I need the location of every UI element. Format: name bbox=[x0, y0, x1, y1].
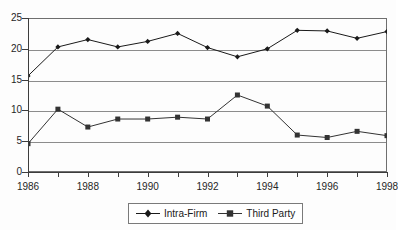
x-tick-label: 1996 bbox=[316, 181, 338, 192]
data-point-square bbox=[175, 115, 180, 120]
x-tick-label: 1994 bbox=[256, 181, 278, 192]
x-tick bbox=[237, 172, 238, 177]
x-tick bbox=[118, 172, 119, 177]
x-tick bbox=[178, 172, 179, 177]
data-point-diamond bbox=[295, 28, 300, 33]
x-tick bbox=[88, 172, 89, 177]
data-point-diamond bbox=[325, 28, 330, 33]
data-point-square bbox=[325, 135, 330, 140]
data-point-diamond bbox=[235, 54, 240, 59]
x-tick-label: 1998 bbox=[376, 181, 398, 192]
series-layer bbox=[28, 18, 387, 172]
y-tick bbox=[22, 141, 28, 142]
data-point-square bbox=[235, 93, 240, 98]
data-point-square bbox=[145, 117, 150, 122]
legend: Intra-Firm Third Party bbox=[128, 203, 303, 224]
y-tick bbox=[22, 49, 28, 50]
legend-entry-intra-firm: Intra-Firm bbox=[136, 208, 207, 219]
legend-label-third-party: Third Party bbox=[246, 208, 295, 219]
square-marker-icon bbox=[218, 208, 242, 219]
series-line bbox=[28, 30, 387, 76]
x-tick bbox=[58, 172, 59, 177]
x-tick bbox=[387, 172, 388, 177]
x-tick-label: 1992 bbox=[196, 181, 218, 192]
legend-label-intra-firm: Intra-Firm bbox=[164, 208, 207, 219]
data-point-square bbox=[205, 117, 210, 122]
data-point-diamond bbox=[85, 37, 90, 42]
y-tick-label: 20 bbox=[11, 44, 22, 54]
x-tick bbox=[208, 172, 209, 177]
data-point-square bbox=[265, 104, 270, 109]
data-point-diamond bbox=[384, 29, 387, 34]
series-third-party bbox=[28, 93, 387, 147]
data-point-square bbox=[295, 133, 300, 138]
x-tick bbox=[327, 172, 328, 177]
y-axis bbox=[28, 18, 29, 172]
x-tick bbox=[297, 172, 298, 177]
y-tick bbox=[22, 80, 28, 81]
x-tick-label: 1986 bbox=[17, 181, 39, 192]
y-tick-label: 0 bbox=[16, 167, 22, 177]
data-point-diamond bbox=[145, 39, 150, 44]
x-tick bbox=[267, 172, 268, 177]
x-tick-label: 1990 bbox=[137, 181, 159, 192]
x-tick-label: 1988 bbox=[77, 181, 99, 192]
y-tick bbox=[22, 110, 28, 111]
legend-entry-third-party: Third Party bbox=[218, 208, 295, 219]
data-point-square bbox=[55, 107, 60, 112]
y-tick bbox=[22, 18, 28, 19]
data-point-diamond bbox=[115, 44, 120, 49]
data-point-diamond bbox=[175, 31, 180, 36]
x-tick bbox=[148, 172, 149, 177]
data-point-diamond bbox=[265, 46, 270, 51]
data-point-diamond bbox=[354, 36, 359, 41]
y-tick-label: 15 bbox=[11, 75, 22, 85]
y-tick-label: 5 bbox=[16, 136, 22, 146]
series-intra-firm bbox=[28, 28, 387, 79]
y-tick-label: 25 bbox=[11, 13, 22, 23]
y-tick-label: 10 bbox=[11, 105, 22, 115]
data-point-square bbox=[85, 125, 90, 130]
data-point-square bbox=[385, 133, 388, 138]
data-point-square bbox=[115, 117, 120, 122]
data-point-diamond bbox=[205, 45, 210, 50]
x-tick bbox=[28, 172, 29, 177]
x-tick bbox=[357, 172, 358, 177]
diamond-marker-icon bbox=[136, 208, 160, 219]
data-point-square bbox=[355, 129, 360, 134]
